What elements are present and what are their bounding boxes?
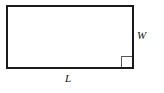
rectangle-diagram: W L	[0, 0, 164, 93]
length-label: L	[65, 73, 71, 84]
diagram-canvas	[0, 0, 164, 93]
width-label: W	[137, 30, 146, 41]
rectangle-shape	[7, 6, 133, 68]
